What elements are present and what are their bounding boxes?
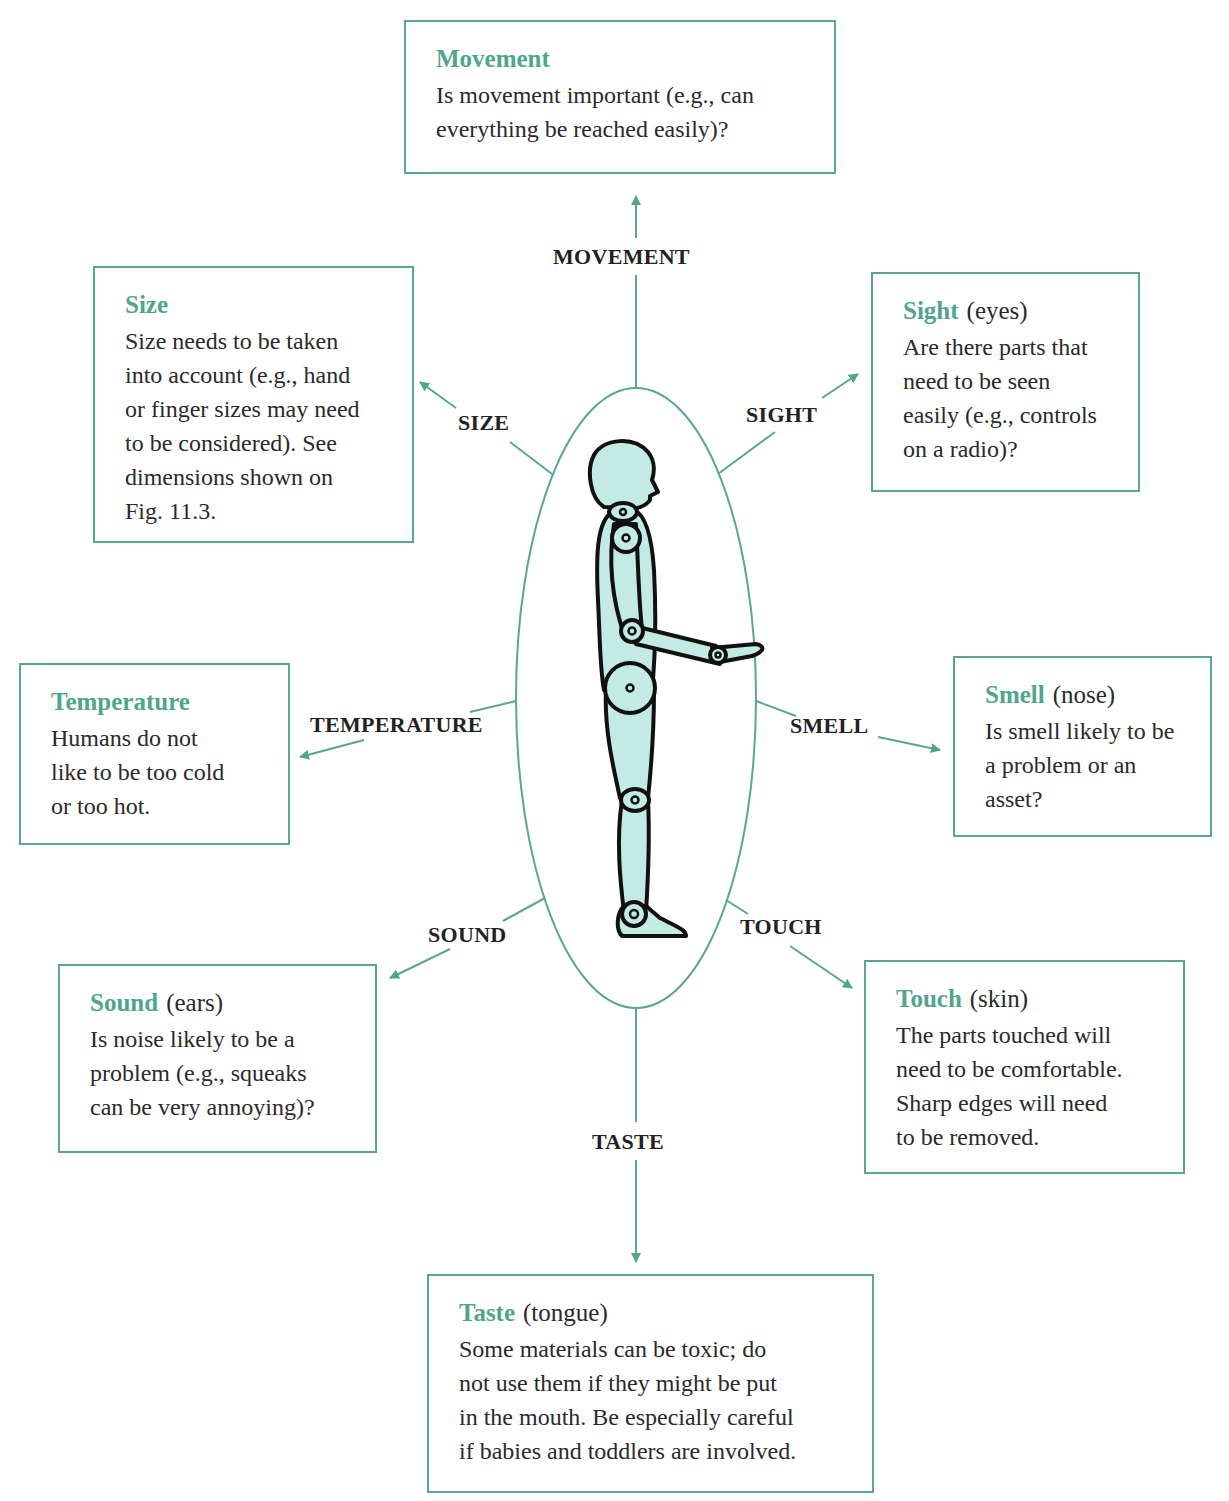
human-figure: [590, 441, 762, 936]
box-title: Smell: [985, 681, 1045, 708]
label-sound: SOUND: [428, 922, 507, 948]
box-text: Some materials can be toxic; do not use …: [459, 1332, 846, 1468]
label-taste: TASTE: [592, 1129, 664, 1155]
box-taste: Taste(tongue) Some materials can be toxi…: [427, 1274, 874, 1493]
neck-joint: [609, 503, 637, 521]
label-smell: SMELL: [790, 713, 869, 739]
temperature-connector: [470, 701, 516, 712]
box-subtitle: (tongue): [523, 1299, 608, 1326]
box-title: Temperature: [51, 688, 190, 715]
box-title: Sight: [903, 297, 959, 324]
box-title: Sound: [90, 989, 158, 1016]
box-title: Taste: [459, 1299, 515, 1326]
figure-shin: [619, 800, 649, 912]
knee-joint: [621, 789, 649, 811]
box-text: Is movement important (e.g., can everyth…: [436, 78, 808, 146]
sight-arrow: [822, 374, 858, 398]
box-size: Size Size needs to be taken into account…: [93, 266, 414, 543]
box-title: Touch: [896, 985, 962, 1012]
label-temperature: TEMPERATURE: [310, 712, 483, 738]
sound-connector: [503, 898, 545, 921]
box-smell: Smell(nose) Is smell likely to be a prob…: [953, 656, 1212, 837]
box-text: Humans do not like to be too cold or too…: [51, 721, 262, 823]
sound-arrow: [390, 949, 450, 978]
size-connector: [510, 442, 552, 474]
box-subtitle: (skin): [970, 985, 1028, 1012]
wrist-joint: [710, 647, 726, 663]
box-text: The parts touched will need to be comfor…: [896, 1018, 1157, 1154]
box-text: Is smell likely to be a problem or an as…: [985, 714, 1184, 816]
box-text: Is noise likely to be a problem (e.g., s…: [90, 1022, 349, 1124]
box-text: Are there parts that need to be seen eas…: [903, 330, 1112, 466]
box-subtitle: (eyes): [967, 297, 1028, 324]
elbow-joint: [621, 620, 643, 642]
size-arrow: [420, 382, 456, 408]
box-subtitle: (ears): [166, 989, 223, 1016]
ankle-joint: [622, 902, 646, 926]
label-size: SIZE: [458, 410, 509, 436]
box-sound: Sound(ears) Is noise likely to be a prob…: [58, 964, 377, 1153]
box-touch: Touch(skin) The parts touched will need …: [864, 960, 1185, 1174]
shoulder-joint: [612, 524, 640, 552]
sight-connector: [718, 432, 775, 474]
label-sight: SIGHT: [746, 402, 817, 428]
box-text: Size needs to be taken into account (e.g…: [125, 324, 386, 528]
smell-arrow: [878, 737, 940, 750]
figure-head: [590, 441, 658, 508]
box-title: Movement: [436, 45, 550, 72]
box-sight: Sight(eyes) Are there parts that need to…: [871, 272, 1140, 492]
temperature-arrow: [300, 740, 364, 757]
box-movement: Movement Is movement important (e.g., ca…: [404, 20, 836, 174]
box-title: Size: [125, 291, 168, 318]
box-subtitle: (nose): [1053, 681, 1115, 708]
box-temperature: Temperature Humans do not like to be too…: [19, 663, 290, 845]
hip-joint: [605, 663, 655, 713]
touch-connector: [726, 900, 748, 914]
label-touch: TOUCH: [740, 914, 822, 940]
label-movement: MOVEMENT: [553, 244, 690, 270]
touch-arrow: [790, 946, 852, 988]
